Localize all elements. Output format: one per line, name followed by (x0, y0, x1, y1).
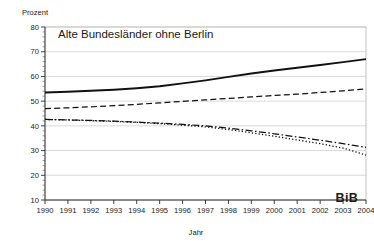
series-line-4 (45, 119, 366, 155)
x-tick-labels: 1990199119921993199419951996199719981999… (37, 206, 374, 215)
x-axis (45, 200, 366, 204)
series-line-1 (45, 59, 366, 92)
data-series (45, 59, 366, 155)
y-tick-label: 80 (31, 23, 39, 32)
y-axis (41, 27, 45, 200)
y-tick-label: 30 (31, 146, 39, 155)
plot-frame (45, 27, 366, 200)
y-tick-label: 70 (31, 47, 39, 56)
chart-title: Alte Bundesländer ohne Berlin (58, 28, 213, 40)
x-axis-title: Jahr (189, 228, 204, 237)
chart-plot-area: 1020304050607080 19901991199219931994199… (31, 23, 374, 215)
x-tick-label: 1991 (59, 206, 76, 215)
y-tick-label: 40 (31, 122, 39, 131)
x-tick-label: 1995 (151, 206, 168, 215)
x-tick-label: 1996 (174, 206, 191, 215)
y-axis-title: Prozent (22, 8, 49, 17)
y-tick-label: 20 (31, 171, 39, 180)
x-tick-label: 2001 (289, 206, 306, 215)
x-tick-label: 1990 (37, 206, 54, 215)
x-tick-label: 1993 (105, 206, 122, 215)
x-tick-label: 1994 (128, 206, 145, 215)
x-tick-label: 1997 (197, 206, 214, 215)
series-line-2 (45, 89, 366, 109)
chart-screenshot: 1020304050607080 19901991199219931994199… (0, 0, 374, 241)
x-tick-label: 2000 (266, 206, 283, 215)
x-tick-label: 1992 (82, 206, 99, 215)
x-tick-label: 1998 (220, 206, 237, 215)
x-tick-label: 2002 (312, 206, 329, 215)
y-tick-label: 50 (31, 97, 39, 106)
x-tick-label: 1999 (243, 206, 260, 215)
gridlines (45, 27, 366, 200)
y-tick-labels: 1020304050607080 (31, 23, 39, 205)
y-tick-label: 60 (31, 72, 39, 81)
series-line-3 (45, 119, 366, 147)
y-tick-label: 10 (31, 196, 39, 205)
bib-logo: BiB (336, 191, 358, 205)
x-tick-label: 2004 (358, 206, 374, 215)
line-chart: 1020304050607080 19901991199219931994199… (0, 0, 374, 241)
x-tick-label: 2003 (335, 206, 352, 215)
